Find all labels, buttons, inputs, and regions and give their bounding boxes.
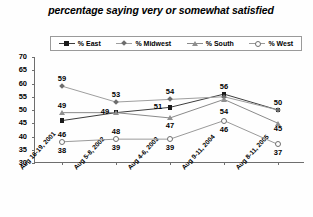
triangle-marker-icon bbox=[187, 40, 203, 48]
plot-area: 706560555045403530 Aug 16-19, 2001Aug 5-… bbox=[34, 57, 304, 163]
data-point-label: 51 bbox=[154, 103, 162, 111]
data-point-label: 38 bbox=[58, 147, 66, 155]
legend-label-midwest: % Midwest bbox=[135, 40, 171, 48]
legend-label-south: % South bbox=[206, 40, 234, 48]
data-point-label: 48 bbox=[112, 128, 120, 136]
diamond-marker-icon bbox=[116, 40, 132, 48]
data-point-label: 49 bbox=[101, 108, 109, 116]
data-point-label: 39 bbox=[112, 144, 120, 152]
legend-item-midwest[interactable]: % Midwest bbox=[116, 40, 171, 48]
circle-marker-icon bbox=[249, 40, 265, 48]
y-axis-tick-label: 60 bbox=[3, 80, 27, 88]
data-point-label: 47 bbox=[166, 122, 174, 130]
chart-container: percentage saying very or somewhat satis… bbox=[0, 0, 313, 217]
triangle-marker-icon bbox=[113, 110, 119, 115]
triangle-marker-icon bbox=[167, 115, 173, 120]
circle-marker-icon bbox=[221, 118, 227, 124]
data-point-label: 59 bbox=[58, 75, 66, 83]
data-point-label: 39 bbox=[166, 144, 174, 152]
legend-item-west[interactable]: % West bbox=[249, 40, 293, 48]
legend-item-east[interactable]: % East bbox=[59, 40, 101, 48]
y-axis-tick-label: 40 bbox=[3, 133, 27, 141]
chart-legend: % East % Midwest % South % West bbox=[50, 36, 302, 51]
data-point-label: 50 bbox=[274, 99, 282, 107]
triangle-marker-icon bbox=[59, 110, 65, 115]
data-point-label: 46 bbox=[58, 131, 66, 139]
data-point-label: 37 bbox=[274, 149, 282, 157]
legend-item-south[interactable]: % South bbox=[187, 40, 234, 48]
circle-marker-icon bbox=[59, 139, 65, 145]
y-axis-tick-label: 45 bbox=[3, 119, 27, 127]
y-axis-tick-label: 65 bbox=[3, 66, 27, 74]
data-point-label: 45 bbox=[274, 125, 282, 133]
y-axis-tick-mark bbox=[32, 163, 35, 164]
square-marker-icon bbox=[168, 105, 173, 110]
data-point-label: 53 bbox=[112, 91, 120, 99]
legend-label-east: % East bbox=[78, 40, 101, 48]
legend-label-west: % West bbox=[268, 40, 293, 48]
data-point-label: 54 bbox=[220, 108, 228, 116]
triangle-marker-icon bbox=[221, 97, 227, 102]
data-point-label: 49 bbox=[58, 102, 66, 110]
y-axis-tick-label: 70 bbox=[3, 53, 27, 61]
data-point-label: 46 bbox=[220, 126, 228, 134]
square-marker-icon bbox=[60, 118, 65, 123]
data-point-label: 56 bbox=[220, 83, 228, 91]
square-marker-icon bbox=[59, 40, 75, 48]
chart-title: percentage saying very or somewhat satis… bbox=[36, 4, 286, 17]
y-axis-tick-label: 35 bbox=[3, 146, 27, 154]
data-point-label: 54 bbox=[166, 88, 174, 96]
y-axis-tick-label: 55 bbox=[3, 93, 27, 101]
y-axis-tick-label: 50 bbox=[3, 106, 27, 114]
